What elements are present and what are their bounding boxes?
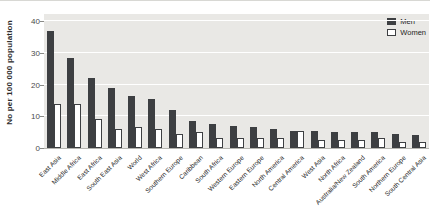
- bar-women: [358, 140, 365, 148]
- bar-men: [250, 127, 257, 148]
- bar-women: [419, 142, 426, 148]
- bar-women: [135, 127, 142, 148]
- bar-women: [176, 134, 183, 148]
- bar-women: [155, 129, 162, 148]
- bar-women: [74, 104, 81, 148]
- bar-men: [290, 131, 297, 148]
- bar-men: [230, 126, 237, 148]
- bar-women: [257, 138, 264, 148]
- bar-women: [399, 142, 406, 148]
- bar-chart-figure: No per 100 000 population 010203040 MenW…: [0, 0, 430, 219]
- y-axis: 010203040: [18, 14, 40, 149]
- bar-women: [338, 140, 345, 148]
- bar-women: [95, 119, 102, 148]
- gridline-20: [44, 84, 429, 85]
- gridline-40: [44, 20, 429, 21]
- bar-women: [115, 129, 122, 148]
- bar-women: [237, 138, 244, 148]
- bar-women: [378, 138, 385, 148]
- legend-swatch-women: [387, 29, 396, 36]
- gridline-30: [44, 52, 429, 53]
- y-axis-title: No per 100 000 population: [5, 5, 14, 140]
- bar-men: [351, 132, 358, 148]
- legend-label: Women: [400, 28, 426, 37]
- bar-men: [148, 99, 155, 148]
- y-tick-label: 10: [20, 112, 40, 121]
- bar-men: [209, 124, 216, 148]
- bar-men: [128, 96, 135, 148]
- bar-men: [47, 31, 54, 148]
- legend-label: Men: [400, 17, 415, 26]
- bar-men: [67, 58, 74, 148]
- bar-men: [189, 121, 196, 148]
- bar-men: [371, 132, 378, 148]
- legend-item-women: Women: [387, 28, 426, 37]
- bar-men: [331, 132, 338, 148]
- bar-women: [196, 132, 203, 148]
- bar-women: [216, 138, 223, 148]
- y-tick-label: 30: [20, 49, 40, 58]
- plot-area: MenWomen: [44, 14, 429, 149]
- bar-men: [169, 110, 176, 148]
- gridline-10: [44, 115, 429, 116]
- bar-women: [297, 131, 304, 148]
- bar-men: [270, 129, 277, 148]
- bar-women: [277, 138, 284, 148]
- bar-women: [54, 104, 61, 148]
- bar-men: [392, 134, 399, 148]
- y-tick-label: 40: [20, 17, 40, 26]
- bar-women: [318, 140, 325, 148]
- bar-men: [88, 78, 95, 148]
- bar-men: [311, 131, 318, 148]
- bar-men: [108, 88, 115, 148]
- y-tick-label: 0: [20, 144, 40, 153]
- y-tick-label: 20: [20, 81, 40, 90]
- legend-item-men: Men: [387, 17, 426, 26]
- x-axis-labels: East AsiaMiddle AfricaEast AfricaSouth E…: [44, 149, 429, 219]
- bar-men: [412, 135, 419, 148]
